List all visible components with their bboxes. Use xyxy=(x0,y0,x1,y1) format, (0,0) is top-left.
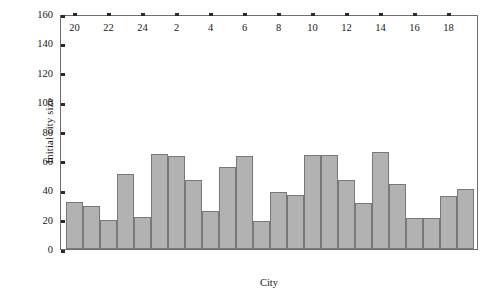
bar xyxy=(151,154,168,249)
x-tick-mark xyxy=(311,13,315,16)
bar xyxy=(321,155,338,249)
bar xyxy=(457,189,474,249)
x-axis-title: City xyxy=(60,277,478,288)
bar xyxy=(338,180,355,249)
x-tick-mark xyxy=(141,13,145,16)
y-tick-label: 0 xyxy=(13,244,53,255)
bar xyxy=(219,167,236,249)
bar xyxy=(168,156,185,249)
x-tick-mark xyxy=(447,13,451,16)
bar xyxy=(134,217,151,249)
bar xyxy=(423,218,440,249)
y-tick-mark xyxy=(61,250,65,253)
bar xyxy=(372,152,389,249)
bar xyxy=(202,211,219,249)
bar-series xyxy=(61,16,477,249)
x-tick-mark xyxy=(175,13,179,16)
y-tick-label: 120 xyxy=(13,68,53,79)
y-tick-label: 80 xyxy=(13,127,53,138)
y-tick-label: 140 xyxy=(13,38,53,49)
y-tick-label: 60 xyxy=(13,156,53,167)
bar xyxy=(355,203,372,249)
x-tick-mark xyxy=(277,13,281,16)
y-tick-label: 100 xyxy=(13,97,53,108)
bar xyxy=(287,195,304,249)
bar xyxy=(270,192,287,249)
y-tick-label: 20 xyxy=(13,215,53,226)
plot-area: 020406080100120140160 202224246810121416… xyxy=(60,15,478,250)
x-tick-mark xyxy=(73,13,77,16)
bar xyxy=(253,221,270,249)
x-tick-mark xyxy=(209,13,213,16)
y-tick-label: 40 xyxy=(13,185,53,196)
bar xyxy=(304,155,321,249)
y-tick-label: 160 xyxy=(13,9,53,20)
x-tick-mark xyxy=(345,13,349,16)
bar xyxy=(117,174,134,249)
bar xyxy=(100,220,117,249)
bar xyxy=(83,206,100,249)
x-tick-mark xyxy=(379,13,383,16)
x-tick-mark xyxy=(107,13,111,16)
x-tick-label: 18 xyxy=(429,22,469,33)
bar xyxy=(66,202,83,249)
bar-chart-figure: Initial city size 020406080100120140160 … xyxy=(0,0,501,302)
bar xyxy=(440,196,457,249)
x-tick-mark xyxy=(413,13,417,16)
bar xyxy=(389,184,406,249)
bar xyxy=(185,180,202,249)
bar xyxy=(236,156,253,249)
x-tick-mark xyxy=(243,13,247,16)
bar xyxy=(406,218,423,249)
